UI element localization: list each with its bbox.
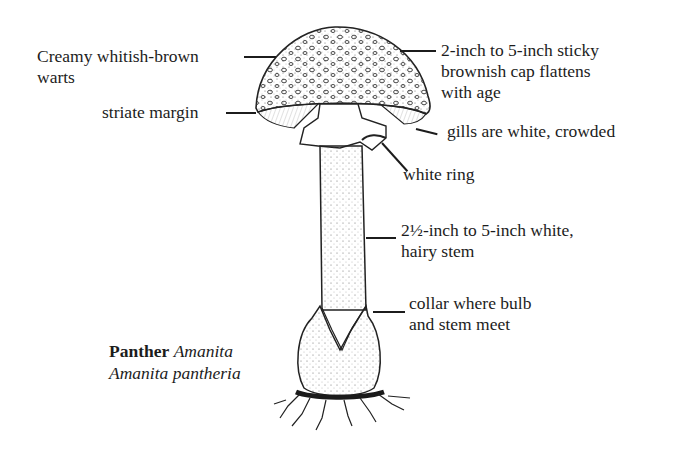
leader-margin (226, 112, 256, 114)
leader-cap (400, 50, 436, 52)
stem-shape (320, 146, 366, 310)
bulb-shape (298, 306, 380, 396)
common-name: Panther Amanita (109, 340, 241, 362)
label-collar: collar where bulb and stem meet (409, 293, 531, 335)
scientific-name: Amanita pantheria (109, 362, 241, 384)
label-gills-line1: gills are white, crowded (447, 121, 615, 142)
label-collar-line1: collar where bulb (409, 293, 531, 314)
label-margin: striate margin (102, 102, 198, 123)
scientific-name-text: Amanita pantheria (109, 363, 241, 383)
ring-shape (300, 104, 386, 150)
label-ring: white ring (403, 164, 474, 185)
label-stem: 2½-inch to 5-inch white, hairy stem (401, 220, 574, 262)
label-collar-line2: and stem meet (409, 314, 531, 335)
leader-warts (244, 56, 276, 58)
label-cap: 2-inch to 5-inch sticky brownish cap fla… (441, 40, 599, 103)
common-name-italic: Amanita (174, 341, 233, 361)
common-name-bold: Panther (109, 341, 169, 361)
leader-stem (366, 237, 396, 239)
label-stem-line1: 2½-inch to 5-inch white, (401, 220, 574, 241)
label-cap-line1: 2-inch to 5-inch sticky (441, 40, 599, 61)
label-warts-line1: Creamy whitish-brown (37, 46, 199, 67)
label-cap-line2: brownish cap flattens (441, 61, 599, 82)
species-title: Panther Amanita Amanita pantheria (109, 340, 241, 384)
label-cap-line3: with age (441, 82, 599, 103)
label-warts: Creamy whitish-brown warts (37, 46, 199, 88)
roots-shape (274, 392, 410, 430)
label-ring-line1: white ring (403, 164, 474, 185)
label-gills: gills are white, crowded (447, 121, 615, 142)
leader-collar (373, 311, 405, 313)
label-warts-line2: warts (37, 67, 199, 88)
label-margin-line1: striate margin (102, 102, 198, 123)
label-stem-line2: hairy stem (401, 241, 574, 262)
